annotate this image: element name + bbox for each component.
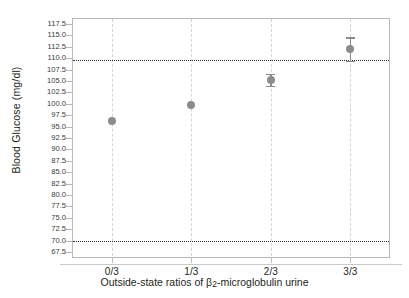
y-axis-tick (66, 70, 72, 71)
error-bar-cap (346, 37, 355, 38)
y-axis-tick-label: 110.0 (30, 54, 66, 62)
y-axis-tick-label: 95.0 (30, 123, 66, 131)
upper-reference-line (73, 60, 389, 61)
y-axis-tick (66, 161, 72, 162)
y-axis-tick-label: 92.5 (30, 134, 66, 142)
y-axis-tick (66, 58, 72, 59)
y-axis-tick-label: 67.5 (30, 248, 66, 256)
y-axis-tick (66, 252, 72, 253)
y-axis-tick (66, 115, 72, 116)
y-axis-tick-label: 100.0 (30, 100, 66, 108)
category-gridline (191, 19, 192, 256)
x-axis-title-subscript: 2 (212, 279, 217, 289)
y-axis-tick (66, 104, 72, 105)
x-axis-tick (271, 257, 272, 263)
y-axis-tick (66, 184, 72, 185)
y-axis-tick (66, 206, 72, 207)
y-axis-tick (66, 241, 72, 242)
y-axis-tick-label: 87.5 (30, 157, 66, 165)
y-axis-tick-label: 112.5 (30, 43, 66, 51)
y-axis-tick-label: 105.0 (30, 77, 66, 85)
y-axis-tick-label: 85.0 (30, 168, 66, 176)
y-axis-tick (66, 172, 72, 173)
x-axis-title-post: -microglobulin urine (217, 276, 309, 288)
x-axis-tick-label: 2/3 (249, 266, 293, 277)
chart-figure: Blood Glucose (mg/dl) 117.5115.0112.5110… (0, 0, 409, 298)
y-axis-tick-label: 75.0 (30, 214, 66, 222)
y-axis-tick-label: 77.5 (30, 202, 66, 210)
data-point-marker (267, 76, 275, 84)
y-axis-tick-label: 70.0 (30, 237, 66, 245)
y-axis-tick-label: 107.5 (30, 66, 66, 74)
data-point-marker (108, 117, 116, 125)
plot-border-right (389, 18, 390, 258)
y-axis-tick (66, 92, 72, 93)
x-axis-tick (112, 257, 113, 263)
y-axis-tick (66, 81, 72, 82)
x-axis-tick-label: 0/3 (90, 266, 134, 277)
plot-area (72, 18, 390, 258)
y-axis-tick-label: 97.5 (30, 111, 66, 119)
x-axis-tick (350, 257, 351, 263)
y-axis-tick (66, 47, 72, 48)
error-bar-cap (346, 61, 355, 62)
y-axis-tick (66, 24, 72, 25)
y-axis-tick (66, 35, 72, 36)
plot-border-bottom (72, 257, 390, 258)
y-axis-tick (66, 229, 72, 230)
y-axis-tick-label: 117.5 (30, 20, 66, 28)
y-axis-tick (66, 149, 72, 150)
y-axis-tick-label: 80.0 (30, 191, 66, 199)
y-axis-tick (66, 218, 72, 219)
category-gridline (271, 19, 272, 256)
data-point-marker (187, 101, 195, 109)
y-axis-tick (66, 195, 72, 196)
y-axis-tick (66, 127, 72, 128)
y-axis-tick-label: 82.5 (30, 180, 66, 188)
category-gridline (112, 19, 113, 256)
y-axis-tick-label: 72.5 (30, 225, 66, 233)
y-axis-title: Blood Glucose (mg/dl) (5, 0, 27, 240)
x-axis-title-pre: Outside-state ratios of β (100, 276, 212, 288)
error-bar-cap (266, 86, 275, 87)
x-axis-tick (191, 257, 192, 263)
y-axis-tick-label: 102.5 (30, 88, 66, 96)
x-axis-tick-label: 3/3 (328, 266, 372, 277)
y-axis-tick-label: 115.0 (30, 31, 66, 39)
y-axis-tick (66, 138, 72, 139)
outer-baseline-rule (60, 264, 402, 265)
x-axis-title: Outside-state ratios of β2-microglobulin… (0, 276, 409, 288)
lower-reference-line (73, 241, 389, 242)
x-axis-tick-label: 1/3 (169, 266, 213, 277)
y-axis-tick-label: 90.0 (30, 145, 66, 153)
y-axis-tick-labels: 117.5115.0112.5110.0107.5105.0102.5100.0… (26, 0, 66, 298)
y-axis-title-text: Blood Glucose (mg/dl) (10, 66, 22, 173)
